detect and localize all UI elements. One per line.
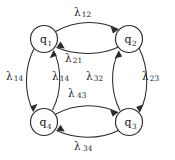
edge-q3-q2 <box>113 51 123 111</box>
edge-label-lambda-12: λ12 <box>74 7 91 19</box>
node-q3[interactable]: q3 <box>116 109 143 136</box>
lambda-subscript-14-outer: 14 <box>14 74 24 83</box>
edge-q3-q4-path <box>57 131 119 138</box>
lambda-glyph-21: λ <box>65 52 72 64</box>
node-q2[interactable]: q2 <box>116 26 143 53</box>
node-q2-subscript: 2 <box>132 39 137 48</box>
lambda-glyph-23: λ <box>142 70 149 82</box>
edge-q3-q2-arrowhead <box>115 51 123 59</box>
edge-q1-q2-path <box>56 22 119 31</box>
edge-q1-q4-path <box>26 49 34 112</box>
node-q1-subscript: 1 <box>47 39 52 48</box>
edge-label-lambda-14-inner: λ14 <box>52 71 69 83</box>
edge-label-lambda-43: λ43 <box>68 88 87 100</box>
lambda-glyph-14-outer: λ <box>6 70 13 82</box>
lambda-glyph-32: λ <box>86 70 93 82</box>
lambda-subscript-32: 32 <box>94 74 104 83</box>
lambda-subscript-12: 12 <box>82 10 92 19</box>
edge-label-lambda-32: λ32 <box>86 71 103 83</box>
state-transition-diagram: q1 q2 q3 q4 λ12 λ21 λ23 λ32 λ34 λ43 λ14 … <box>0 0 175 160</box>
lambda-glyph-12: λ <box>74 6 81 18</box>
edge-q4-q3 <box>55 106 118 117</box>
lambda-glyph-43: λ <box>68 87 75 99</box>
edge-label-lambda-21: λ21 <box>65 53 82 65</box>
lambda-subscript-34: 34 <box>83 144 93 153</box>
edge-q1-q2 <box>56 22 119 33</box>
edge-q1-q4 <box>26 49 37 112</box>
edge-q3-q4-arrowhead <box>57 125 65 132</box>
edge-label-lambda-34: λ34 <box>74 141 93 153</box>
node-q4-subscript: 4 <box>47 122 52 131</box>
edge-label-lambda-23: λ23 <box>142 71 159 83</box>
lambda-subscript-23: 23 <box>150 74 160 83</box>
lambda-subscript-43: 43 <box>77 91 87 100</box>
node-q3-subscript: 3 <box>132 122 137 131</box>
edge-q4-q3-path <box>55 106 118 115</box>
lambda-glyph-14-inner: λ <box>52 70 59 82</box>
edge-q3-q2-path <box>113 51 120 111</box>
node-q1[interactable]: q1 <box>31 26 58 53</box>
edge-label-lambda-14-outer: λ14 <box>6 71 23 83</box>
lambda-subscript-21: 21 <box>73 56 83 65</box>
edge-q2-q1-arrowhead <box>57 42 65 49</box>
node-q4[interactable]: q4 <box>31 109 58 136</box>
edge-q3-q4 <box>57 125 119 138</box>
lambda-subscript-14-inner: 14 <box>60 74 70 83</box>
lambda-glyph-34: λ <box>74 140 81 152</box>
